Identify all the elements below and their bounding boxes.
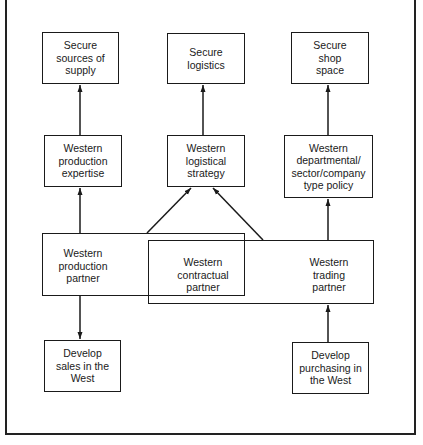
- label-contractual-partner: Western contractual partner: [160, 256, 246, 294]
- box-text-line: partner: [44, 272, 122, 285]
- box-text-line: logistics: [187, 59, 224, 72]
- box-text-line: partner: [290, 281, 368, 294]
- arrow-production-partner-to-strategy: [147, 188, 191, 233]
- box-text-line: Western: [186, 142, 226, 155]
- box-text-line: departmental/: [291, 154, 365, 167]
- box-text-line: sales in the: [56, 360, 109, 373]
- box-text-line: Western: [160, 256, 246, 269]
- box-text-line: strategy: [186, 167, 226, 180]
- box-develop-purchasing: Develop purchasing in the West: [292, 342, 369, 394]
- box-production-expertise: Western production expertise: [44, 135, 122, 187]
- box-text-line: Develop: [56, 347, 109, 360]
- box-text-line: Western: [291, 142, 365, 155]
- box-text-line: space: [313, 64, 346, 77]
- box-text-line: expertise: [58, 167, 107, 180]
- box-text-line: shop: [313, 52, 346, 65]
- box-text-line: logistical: [186, 155, 226, 168]
- box-secure-logistics: Secure logistics: [167, 33, 245, 84]
- label-production-partner: Western production partner: [44, 247, 122, 285]
- box-text-line: Western: [44, 247, 122, 260]
- box-text-line: sector/company: [291, 167, 365, 180]
- box-text-line: Western: [290, 256, 368, 269]
- box-text-line: partner: [160, 281, 246, 294]
- box-text-line: Western: [58, 142, 107, 155]
- box-secure-supply: Secure sources of supply: [42, 32, 119, 84]
- box-text-line: contractual: [160, 269, 246, 282]
- box-text-line: Secure: [56, 39, 104, 52]
- box-text-line: Secure: [187, 46, 224, 59]
- box-text-line: West: [56, 372, 109, 385]
- box-text-line: sources of: [56, 52, 104, 65]
- box-departmental-policy: Western departmental/ sector/company typ…: [284, 135, 373, 198]
- box-text-line: Secure: [313, 39, 346, 52]
- box-text-line: production: [44, 260, 122, 273]
- box-logistical-strategy: Western logistical strategy: [167, 135, 245, 187]
- box-develop-sales: Develop sales in the West: [44, 340, 121, 392]
- box-text-line: the West: [299, 374, 361, 387]
- box-secure-shop-space: Secure shop space: [291, 32, 369, 84]
- box-text-line: supply: [56, 64, 104, 77]
- box-text-line: Develop: [299, 349, 361, 362]
- box-text-line: trading: [290, 269, 368, 282]
- label-trading-partner: Western trading partner: [290, 256, 368, 294]
- box-text-line: purchasing in: [299, 362, 361, 375]
- box-text-line: type policy: [291, 179, 365, 192]
- box-text-line: production: [58, 155, 107, 168]
